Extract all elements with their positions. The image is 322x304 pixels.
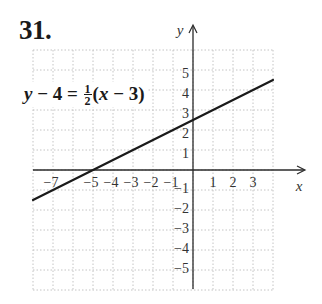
x-tick-label: −5	[84, 175, 99, 190]
fraction-numerator: 1	[84, 84, 92, 95]
y-tick-label: −4	[174, 241, 189, 256]
x-axis-label: x	[295, 178, 303, 194]
x-tick-label: 3	[250, 175, 257, 190]
axes: xy	[33, 22, 305, 289]
y-tick-label: −5	[174, 261, 189, 276]
x-tick-label: 1	[210, 175, 217, 190]
y-tick-label: −3	[174, 221, 189, 236]
y-tick-label: 4	[182, 86, 189, 101]
x-tick-label: 2	[230, 175, 237, 190]
fraction-denominator: 2	[84, 95, 92, 106]
y-tick-label: 3	[182, 106, 189, 121]
equation-rhs-rest: − 3)	[108, 83, 144, 104]
x-tick-label: −2	[144, 175, 159, 190]
y-tick-label: −2	[174, 201, 189, 216]
x-tick-label: −3	[124, 175, 139, 190]
equation-fraction: 12	[84, 84, 92, 106]
equation-label: y − 4 = 12(x − 3)	[22, 82, 147, 107]
coordinate-plane: xy −7−5−4−3−2−112354321−1−2−3−4−5	[0, 0, 322, 304]
y-tick-label: −1	[174, 181, 189, 196]
y-tick-label: 1	[182, 146, 189, 161]
y-tick-label: 5	[182, 66, 189, 81]
y-axis-label: y	[175, 22, 184, 38]
x-tick-label: −4	[104, 175, 119, 190]
y-tick-label: 2	[182, 126, 189, 141]
equation-lhs-rest: − 4 =	[32, 83, 82, 104]
equation-rhs-variable: x	[99, 83, 109, 104]
